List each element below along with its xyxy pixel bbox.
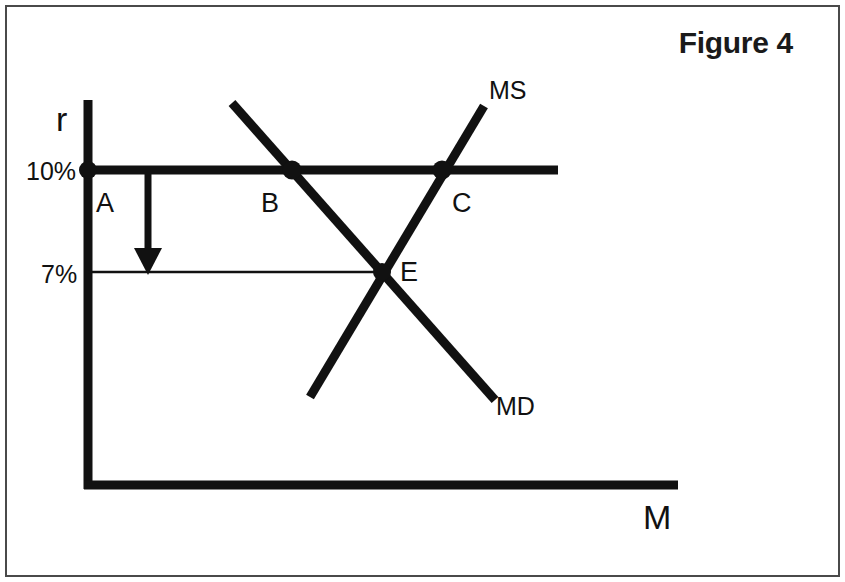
money-market-diagram: r M 10% 7% A B C E MS MD xyxy=(0,0,845,582)
y-axis-label: r xyxy=(56,100,67,138)
figure-page: Figure 4 r M 10% 7% A B C E M xyxy=(0,0,845,582)
point-label-e: E xyxy=(400,257,418,287)
point-marker-a xyxy=(79,161,97,179)
x-axis-label: M xyxy=(643,498,671,536)
point-marker-b xyxy=(283,161,302,180)
point-marker-c xyxy=(433,161,452,180)
curve-label-ms: MS xyxy=(489,76,527,104)
tick-label-7-percent: 7% xyxy=(41,260,77,288)
tick-label-10-percent: 10% xyxy=(26,157,76,185)
point-marker-e xyxy=(373,263,391,281)
point-label-a: A xyxy=(96,188,114,218)
point-label-c: C xyxy=(452,188,472,218)
curve-label-md: MD xyxy=(496,392,535,420)
point-label-b: B xyxy=(261,188,279,218)
